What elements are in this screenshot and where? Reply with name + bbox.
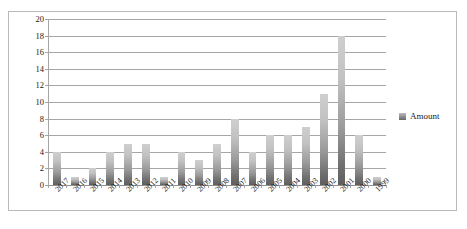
- bar-slot[interactable]: [195, 19, 203, 185]
- bar-slot[interactable]: [338, 19, 346, 185]
- y-axis-tick-label: 8: [40, 114, 44, 123]
- bar-slot[interactable]: [320, 19, 328, 185]
- bar-slot[interactable]: [213, 19, 221, 185]
- bar-slot[interactable]: [302, 19, 310, 185]
- bar-slot[interactable]: [373, 19, 381, 185]
- bar-series-amount: [48, 19, 386, 185]
- legend-label-amount: Amount: [410, 112, 440, 121]
- bar[interactable]: [284, 135, 292, 185]
- bar-slot[interactable]: [89, 19, 97, 185]
- bar-slot[interactable]: [160, 19, 168, 185]
- bar-slot[interactable]: [249, 19, 257, 185]
- bar[interactable]: [213, 144, 221, 186]
- bar-slot[interactable]: [178, 19, 186, 185]
- y-axis-tick-label: 16: [36, 48, 45, 57]
- legend: Amount: [399, 112, 440, 121]
- bar-slot[interactable]: [124, 19, 132, 185]
- y-axis-tick-label: 10: [36, 98, 45, 107]
- bar[interactable]: [320, 94, 328, 185]
- bar-slot[interactable]: [106, 19, 114, 185]
- bar[interactable]: [231, 119, 239, 185]
- bar-slot[interactable]: [266, 19, 274, 185]
- bar[interactable]: [338, 36, 346, 185]
- bar-slot[interactable]: [71, 19, 79, 185]
- legend-swatch-amount: [399, 113, 406, 120]
- bar[interactable]: [124, 144, 132, 186]
- bar[interactable]: [355, 135, 363, 185]
- y-axis-labels: 02468101214161820: [9, 12, 47, 210]
- bar[interactable]: [142, 144, 150, 186]
- bar-slot[interactable]: [142, 19, 150, 185]
- plot-area: [48, 19, 386, 185]
- bar-slot[interactable]: [53, 19, 61, 185]
- y-axis-tick-label: 6: [40, 131, 44, 140]
- bar[interactable]: [302, 127, 310, 185]
- x-axis-labels: 2017201620152014201320122011201020092008…: [48, 188, 386, 212]
- y-axis-tick-label: 2: [40, 164, 44, 173]
- y-axis-tick-label: 20: [36, 15, 45, 24]
- y-axis-tick-label: 12: [36, 81, 45, 90]
- bar-slot[interactable]: [284, 19, 292, 185]
- y-axis-tick-label: 4: [40, 148, 44, 157]
- bar-slot[interactable]: [231, 19, 239, 185]
- y-axis-tick-label: 14: [36, 65, 45, 74]
- y-axis-tick-label: 18: [36, 31, 45, 40]
- y-axis-tick-label: 0: [40, 181, 44, 190]
- bar[interactable]: [266, 135, 274, 185]
- chart-frame: 02468101214161820 2017201620152014201320…: [8, 11, 457, 211]
- bar-slot[interactable]: [355, 19, 363, 185]
